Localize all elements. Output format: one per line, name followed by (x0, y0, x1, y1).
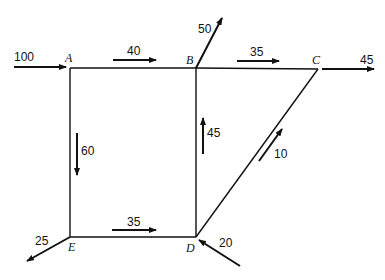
flow-label-d-c: 10 (274, 147, 288, 161)
outflow-arrow-e (27, 237, 70, 261)
inflow-label-d: 20 (219, 236, 233, 250)
inflow-label-a: 100 (14, 50, 34, 64)
node-label-e: E (67, 240, 76, 254)
flow-network-diagram: A B C D E 100 50 45 20 25 40 35 60 35 45… (0, 0, 385, 280)
edge-d-c (196, 69, 318, 237)
outflow-label-b: 50 (198, 22, 212, 36)
edge-b-c (196, 68, 318, 69)
node-label-c: C (312, 53, 321, 67)
flow-label-a-e: 60 (81, 144, 95, 158)
flow-label-b-c: 35 (250, 45, 264, 59)
outflow-label-c: 45 (360, 53, 374, 67)
node-label-b: B (186, 53, 194, 67)
node-label-d: D (185, 241, 195, 255)
flow-label-a-b: 40 (127, 44, 141, 58)
flow-label-d-b: 45 (207, 126, 221, 140)
node-label-a: A (64, 51, 73, 65)
outflow-label-e: 25 (35, 234, 49, 248)
flow-label-e-d: 35 (127, 215, 141, 229)
